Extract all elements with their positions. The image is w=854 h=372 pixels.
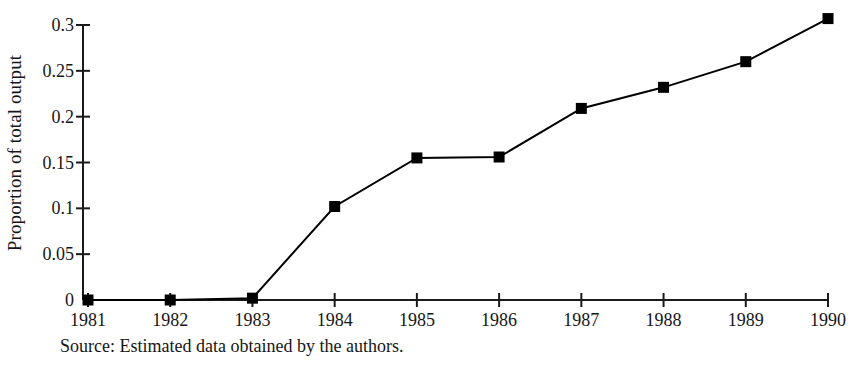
- data-point-marker: [823, 13, 834, 24]
- data-series: [83, 13, 834, 305]
- chart-figure: Proportion of total output 00.050.10.150…: [0, 0, 854, 372]
- data-point-marker: [411, 152, 422, 163]
- source-caption: Source: Estimated data obtained by the a…: [60, 336, 403, 357]
- data-point-marker: [494, 152, 505, 163]
- data-line: [88, 19, 828, 300]
- data-point-marker: [165, 295, 176, 306]
- plot-area: [0, 0, 854, 372]
- data-point-marker: [247, 293, 258, 304]
- data-point-marker: [740, 56, 751, 67]
- axes: [76, 25, 828, 307]
- data-point-marker: [576, 103, 587, 114]
- data-point-marker: [83, 295, 94, 306]
- data-point-marker: [329, 201, 340, 212]
- data-point-marker: [658, 82, 669, 93]
